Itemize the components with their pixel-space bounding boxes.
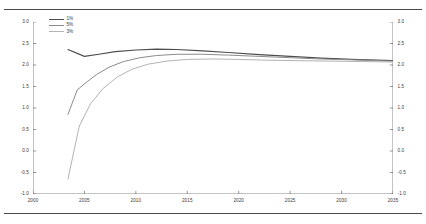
- y-axis-right-tick-3: 1.5: [398, 84, 418, 89]
- y-axis-right-tick-7: -0.5: [398, 170, 418, 175]
- x-axis-tick-5: 2025: [275, 198, 305, 203]
- y-axis-left-tick-8: -1.0: [9, 191, 29, 196]
- x-axis-tick-3: 2015: [172, 198, 202, 203]
- y-axis-right-tick-6: 0.0: [398, 148, 418, 153]
- legend-swatch-0: [49, 19, 64, 20]
- y-axis-left-tick-6: 0.0: [9, 148, 29, 153]
- chart-figure: 1% 5% 3% 3.02.52.01.51.00.50.0-0.5-1.03.…: [0, 0, 426, 224]
- y-axis-right-tick-5: 0.5: [398, 127, 418, 132]
- plot-svg: [33, 22, 393, 194]
- y-axis-left-tick-1: 2.5: [9, 41, 29, 46]
- y-axis-left-tick-7: -0.5: [9, 170, 29, 175]
- y-axis-right-tick-1: 2.5: [398, 41, 418, 46]
- y-axis-left-tick-3: 1.5: [9, 84, 29, 89]
- y-axis-left-tick-2: 2.0: [9, 62, 29, 67]
- y-axis-right-tick-2: 2.0: [398, 62, 418, 67]
- plot-area: [33, 22, 393, 194]
- x-axis-tick-4: 2020: [224, 198, 254, 203]
- x-axis-tick-0: 2000: [18, 198, 48, 203]
- y-axis-right-tick-4: 1.0: [398, 105, 418, 110]
- x-axis-tick-6: 2030: [327, 198, 357, 203]
- y-axis-right-tick-0: 3.0: [398, 19, 418, 24]
- y-axis-left-tick-0: 3.0: [9, 19, 29, 24]
- y-axis-left-tick-5: 0.5: [9, 127, 29, 132]
- y-axis-right-tick-8: -1.0: [398, 191, 418, 196]
- top-divider-rule: [4, 9, 422, 10]
- x-axis-tick-7: 2035: [378, 198, 408, 203]
- bottom-divider-rule: [4, 213, 422, 214]
- x-axis-tick-2: 2010: [121, 198, 151, 203]
- y-axis-left-tick-4: 1.0: [9, 105, 29, 110]
- x-axis-tick-1: 2005: [69, 198, 99, 203]
